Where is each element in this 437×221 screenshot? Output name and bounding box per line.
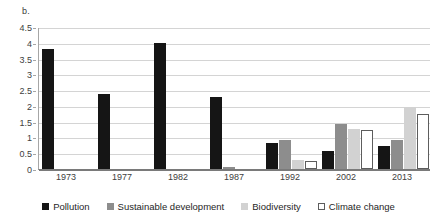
x-tick-label-1973: 1973 — [56, 172, 76, 182]
x-tick-label-1987: 1987 — [224, 172, 244, 182]
plot-area — [38, 28, 430, 170]
gridline-0 — [39, 170, 430, 171]
y-tick-mark — [33, 138, 36, 139]
y-tick-mark — [33, 170, 36, 171]
bar-2013-series-1 — [391, 140, 403, 169]
bar-chart-figure: b. 00.511.522.533.544.5 1973197719821987… — [0, 0, 437, 221]
x-tick-label-2002: 2002 — [336, 172, 356, 182]
y-tick-mark — [33, 154, 36, 155]
y-tick-label: 0.5 — [19, 149, 32, 159]
legend-item-2[interactable]: Biodiversity — [241, 201, 301, 212]
legend-label: Climate change — [329, 201, 395, 212]
bar-2002-series-1 — [335, 124, 347, 169]
legend-swatch-icon — [107, 203, 114, 210]
bar-1992-series-2 — [292, 160, 304, 169]
bars-layer — [39, 28, 430, 169]
y-tick-label: 3.5 — [19, 55, 32, 65]
y-tick-label: 2 — [27, 102, 32, 112]
y-tick-mark — [33, 107, 36, 108]
y-axis: 00.511.522.533.544.5 — [0, 28, 36, 170]
bar-1982-series-0 — [154, 43, 166, 169]
legend-item-3[interactable]: Climate change — [318, 201, 395, 212]
legend-label: Biodiversity — [252, 201, 301, 212]
y-tick-mark — [33, 123, 36, 124]
bar-2013-series-3 — [417, 114, 429, 169]
y-tick-label: 0 — [27, 165, 32, 175]
x-tick-label-1992: 1992 — [280, 172, 300, 182]
y-tick-mark — [33, 75, 36, 76]
x-tick-label-1982: 1982 — [168, 172, 188, 182]
y-tick-mark — [33, 91, 36, 92]
panel-label: b. — [22, 6, 30, 16]
x-tick-label-1977: 1977 — [112, 172, 132, 182]
legend-swatch-icon — [241, 203, 248, 210]
legend-swatch-icon — [42, 203, 49, 210]
legend-item-0[interactable]: Pollution — [42, 201, 89, 212]
legend-label: Sustainable development — [118, 201, 225, 212]
bar-2002-series-0 — [322, 151, 334, 169]
bar-2013-series-0 — [378, 146, 390, 169]
bar-1973-series-0 — [42, 49, 54, 169]
y-tick-label: 3 — [27, 70, 32, 80]
x-tick-label-2013: 2013 — [392, 172, 412, 182]
bar-2002-series-2 — [348, 129, 360, 169]
y-tick-label: 1.5 — [19, 118, 32, 128]
y-tick-mark — [33, 60, 36, 61]
chart-legend: PollutionSustainable developmentBiodiver… — [0, 196, 437, 216]
bar-1992-series-1 — [279, 140, 291, 169]
legend-swatch-icon — [318, 203, 325, 210]
bar-1987-series-1 — [223, 167, 235, 169]
y-tick-label: 4 — [27, 39, 32, 49]
bar-1992-series-3 — [305, 161, 317, 169]
y-tick-label: 2.5 — [19, 86, 32, 96]
bar-1992-series-0 — [266, 143, 278, 170]
bar-1977-series-0 — [98, 94, 110, 169]
x-axis: 1973197719821987199220022013 — [38, 172, 430, 188]
y-tick-mark — [33, 44, 36, 45]
bar-2002-series-3 — [361, 130, 373, 169]
y-tick-label: 4.5 — [19, 23, 32, 33]
y-tick-label: 1 — [27, 133, 32, 143]
bar-2013-series-2 — [404, 107, 416, 169]
legend-label: Pollution — [53, 201, 89, 212]
bar-1987-series-0 — [210, 97, 222, 169]
legend-item-1[interactable]: Sustainable development — [107, 201, 225, 212]
y-tick-mark — [33, 28, 36, 29]
